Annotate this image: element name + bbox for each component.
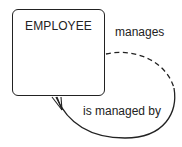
entity-employee[interactable]: EMPLOYEE <box>12 9 105 96</box>
relationship-label-manages: manages <box>115 25 164 39</box>
entity-title: EMPLOYEE <box>13 19 104 33</box>
relationship-label-is-managed-by: is managed by <box>83 104 161 118</box>
relationship-line-dashed <box>106 52 174 88</box>
er-diagram: EMPLOYEE manages is managed by <box>0 0 182 147</box>
